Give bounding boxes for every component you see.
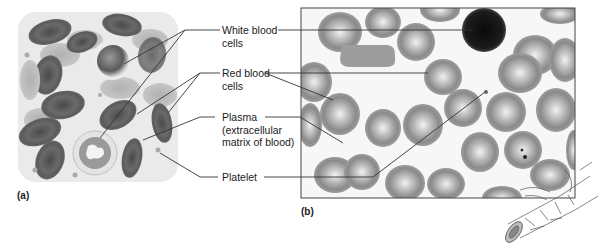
label-red-blood-cells-line2: cells (222, 80, 270, 93)
label-plasma-line2: (extracellular (222, 124, 294, 137)
label-white-blood-cells-line1: White blood (222, 24, 277, 37)
label-white-blood-cells-line2: cells (222, 37, 277, 50)
label-red-blood-cells-line1: Red blood (222, 67, 270, 80)
figure-artwork (0, 0, 598, 245)
label-plasma-line3: matrix of blood) (222, 136, 294, 149)
label-red-blood-cells: Red blood cells (222, 67, 270, 92)
panel-label-a: (a) (17, 190, 29, 201)
panel-a-illustration (15, 11, 178, 184)
panel-b-micrograph (296, 0, 582, 210)
label-platelet: Platelet (222, 171, 257, 184)
label-plasma: Plasma (extracellular matrix of blood) (222, 111, 294, 149)
blood-composition-figure: White blood cells Red blood cells Plasma… (0, 0, 598, 245)
panel-label-b: (b) (301, 206, 314, 217)
label-plasma-line1: Plasma (222, 111, 294, 124)
label-white-blood-cells: White blood cells (222, 24, 277, 49)
label-platelet-line1: Platelet (222, 171, 257, 184)
